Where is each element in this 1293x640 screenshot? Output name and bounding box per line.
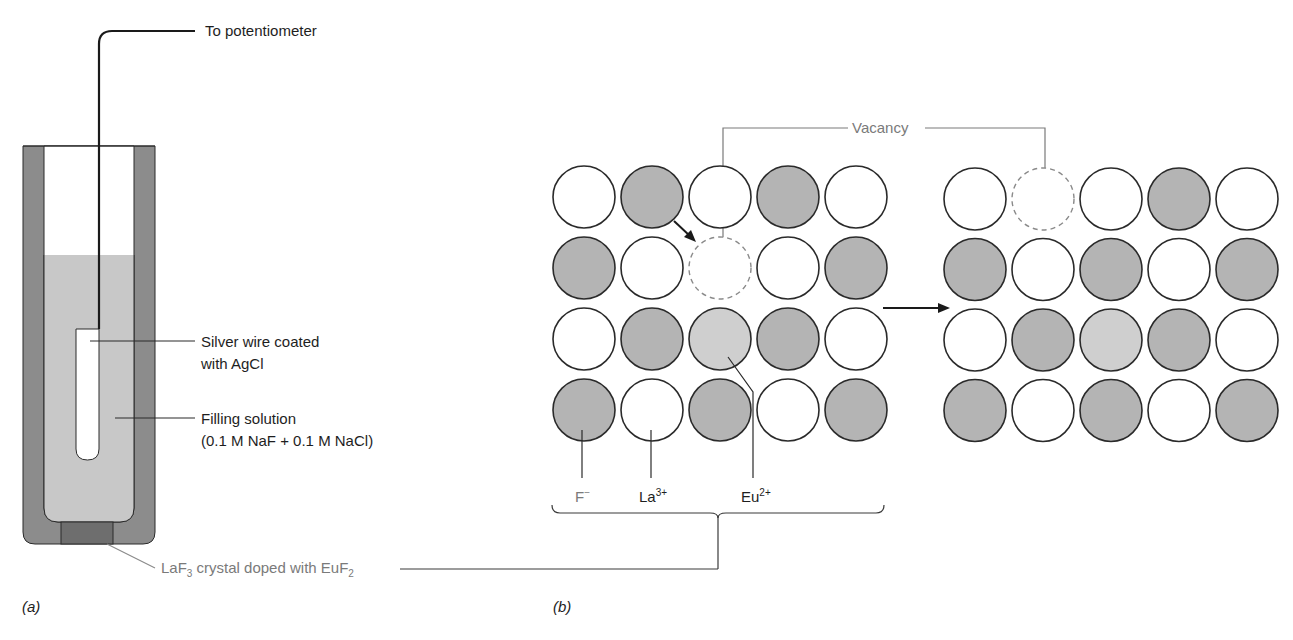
panel-b-tag: (b) (553, 598, 571, 615)
europium-ion (689, 308, 751, 370)
fluoride-ion (1080, 239, 1142, 301)
europium-ion (1080, 309, 1142, 371)
lanthanum-ion (1148, 239, 1210, 301)
fluoride-ion-label: F− (575, 482, 590, 508)
fluoride-charge: − (584, 487, 590, 498)
fluoride-ion (825, 237, 887, 299)
vacancy-site (689, 237, 751, 299)
fluoride-ion (689, 379, 751, 441)
lanthanum-ion (1216, 168, 1278, 230)
fluoride-ion (1216, 239, 1278, 301)
crystal-label-prefix: LaF (161, 559, 187, 576)
crystal-label-mid: crystal doped with EuF (192, 559, 348, 576)
lanthanum-ion (757, 379, 819, 441)
laf3-crystal (61, 522, 113, 544)
fluoride-ion (621, 166, 683, 228)
fluoride-electrode (23, 31, 195, 568)
lanthanum-ion (1012, 239, 1074, 301)
diagram-canvas (0, 0, 1293, 640)
vacancy-site (1012, 168, 1074, 230)
crystal-label: LaF3 crystal doped with EuF2 (161, 557, 354, 585)
fluoride-ion (757, 308, 819, 370)
lanthanum-ion (1148, 380, 1210, 442)
panel-a-tag: (a) (22, 598, 40, 615)
fluoride-ion (944, 239, 1006, 301)
lanthanum-charge: 3+ (656, 487, 667, 498)
lanthanum-ion (944, 309, 1006, 371)
lanthanum-ion (1080, 168, 1142, 230)
fluoride-symbol: F (575, 488, 584, 505)
vacancy-label: Vacancy (852, 117, 908, 139)
potentiometer-label: To potentiometer (205, 20, 317, 42)
europium-symbol: Eu (741, 488, 759, 505)
lanthanum-ion (944, 168, 1006, 230)
fluoride-ion (944, 380, 1006, 442)
lattice-after (944, 168, 1278, 442)
silver-wire-label-line1: Silver wire coated (201, 331, 319, 353)
lanthanum-ion (825, 166, 887, 228)
lanthanum-ion (689, 166, 751, 228)
lanthanum-ion (1216, 309, 1278, 371)
lanthanum-ion (553, 166, 615, 228)
lanthanum-ion (825, 308, 887, 370)
fluoride-ion (1148, 309, 1210, 371)
fluoride-ion (1080, 380, 1142, 442)
lanthanum-ion (553, 308, 615, 370)
silver-wire-label-line2: with AgCl (201, 353, 319, 375)
silver-wire (76, 329, 99, 460)
lattice-before (553, 166, 887, 441)
fluoride-ion (1216, 380, 1278, 442)
europium-charge: 2+ (759, 487, 770, 498)
filling-solution-label: Filling solution (0.1 M NaF + 0.1 M NaCl… (201, 408, 373, 452)
migration-arrow (674, 221, 696, 242)
fluoride-ion (825, 379, 887, 441)
fluoride-ion (553, 379, 615, 441)
lanthanum-symbol: La (639, 488, 656, 505)
transition-arrow (883, 303, 950, 313)
fluoride-ion (757, 166, 819, 228)
europium-ion-label: Eu2+ (741, 482, 771, 508)
filling-label-line2: (0.1 M NaF + 0.1 M NaCl) (201, 430, 373, 452)
lanthanum-ion (757, 237, 819, 299)
lanthanum-ion (621, 379, 683, 441)
crystal-brace (552, 505, 884, 518)
silver-wire-label: Silver wire coated with AgCl (201, 331, 319, 375)
fluoride-ion (553, 237, 615, 299)
fluoride-ion (1012, 309, 1074, 371)
lanthanum-ion (621, 237, 683, 299)
lanthanum-ion (1012, 380, 1074, 442)
lanthanum-ion-label: La3+ (639, 482, 667, 508)
fluoride-ion (621, 308, 683, 370)
filling-label-line1: Filling solution (201, 408, 373, 430)
fluoride-ion (1148, 168, 1210, 230)
crystal-label-sub2: 2 (348, 568, 354, 579)
